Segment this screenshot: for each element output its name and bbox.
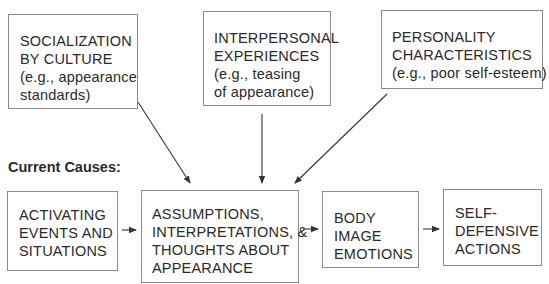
- assumptions-interpretations-box: ASSUMPTIONS, INTERPRETATIONS, & THOUGHTS…: [141, 190, 299, 283]
- box-text-line: of appearance): [214, 83, 339, 101]
- box-text-line: APPEARANCE: [152, 259, 307, 277]
- box-text-line: BY CULTURE: [20, 50, 137, 68]
- activating-events-box: ACTIVATING EVENTS AND SITUATIONS: [7, 191, 118, 271]
- box-text-line: EXPERIENCES: [214, 47, 339, 65]
- box-text-line: EMOTIONS: [334, 245, 413, 263]
- box-text-line: (e.g., teasing: [214, 65, 339, 83]
- socialization-by-culture-box: SOCIALIZATION BY CULTURE (e.g., appearan…: [8, 14, 138, 109]
- box-text-line: (e.g., poor self-esteem): [392, 64, 547, 82]
- box-text-line: ACTIONS: [455, 240, 539, 258]
- arrow-personality-to-assumptions: [295, 94, 387, 183]
- box-text-line: THOUGHTS ABOUT: [152, 241, 307, 259]
- current-causes-label: Current Causes:: [8, 159, 121, 175]
- box-text-line: BODY: [334, 209, 413, 227]
- box-text-line: INTERPRETATIONS, &: [152, 223, 307, 241]
- box-text-line: CHARACTERISTICS: [392, 46, 547, 64]
- box-text-line: standards): [20, 86, 137, 104]
- personality-characteristics-box: PERSONALITY CHARACTERISTICS (e.g., poor …: [381, 10, 543, 89]
- box-text-line: SOCIALIZATION: [20, 32, 137, 50]
- box-text-line: INTERPERSONAL: [214, 29, 339, 47]
- box-text-line: EVENTS AND: [19, 224, 113, 242]
- box-text-line: (e.g., appearance: [20, 68, 137, 86]
- box-text-line: ASSUMPTIONS,: [152, 205, 307, 223]
- box-text-line: PERSONALITY: [392, 28, 547, 46]
- interpersonal-experiences-box: INTERPERSONAL EXPERIENCES (e.g., teasing…: [203, 11, 331, 106]
- box-text-line: SITUATIONS: [19, 242, 113, 260]
- box-text-line: ACTIVATING: [19, 206, 113, 224]
- arrow-socialization-to-assumptions: [138, 102, 190, 183]
- body-image-emotions-box: BODY IMAGE EMOTIONS: [322, 191, 419, 268]
- self-defensive-actions-box: SELF- DEFENSIVE ACTIONS: [443, 189, 542, 266]
- box-text-line: IMAGE: [334, 227, 413, 245]
- box-text-line: SELF-: [455, 204, 539, 222]
- box-text-line: DEFENSIVE: [455, 222, 539, 240]
